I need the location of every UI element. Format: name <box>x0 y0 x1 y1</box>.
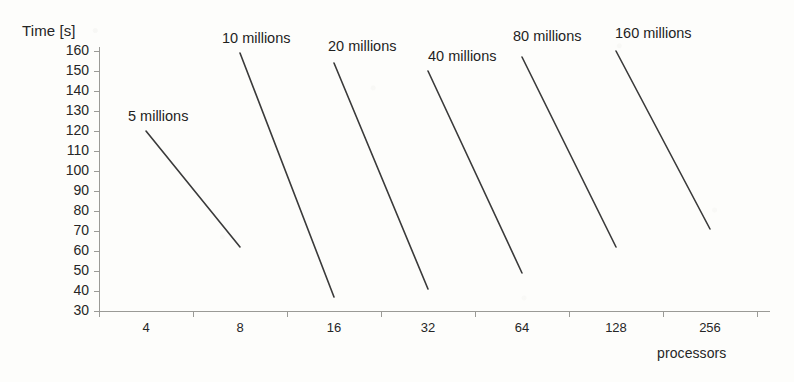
x-tick-label: 64 <box>492 320 552 335</box>
y-tick-label: 70 <box>55 222 89 238</box>
series-line <box>240 53 334 297</box>
y-tick-label: 40 <box>55 282 89 298</box>
y-tick-label: 150 <box>55 62 89 78</box>
x-tick-label: 32 <box>398 320 458 335</box>
tick-marks <box>94 51 757 317</box>
y-tick-label: 100 <box>55 162 89 178</box>
x-axis-title: processors <box>657 345 726 361</box>
series-label: 20 millions <box>328 38 397 54</box>
y-tick-label: 50 <box>55 262 89 278</box>
chart-container: Time [s] processors 16015014013012011010… <box>0 0 794 382</box>
x-tick-label: 8 <box>210 320 270 335</box>
series-label: 10 millions <box>222 30 291 46</box>
series-label: 160 millions <box>615 25 692 41</box>
series-label: 40 millions <box>428 48 497 64</box>
y-tick-label: 90 <box>55 182 89 198</box>
series-line <box>146 131 240 247</box>
x-tick-label: 128 <box>586 320 646 335</box>
series-line <box>522 57 616 247</box>
x-tick-label: 256 <box>680 320 740 335</box>
y-tick-label: 30 <box>55 302 89 318</box>
y-tick-label: 110 <box>55 142 89 158</box>
y-tick-label: 160 <box>55 42 89 58</box>
series-label: 5 millions <box>128 108 188 124</box>
y-tick-label: 130 <box>55 102 89 118</box>
series-lines <box>146 51 710 297</box>
series-line <box>428 71 522 273</box>
y-tick-label: 80 <box>55 202 89 218</box>
x-tick-label: 4 <box>116 320 176 335</box>
x-tick-label: 16 <box>304 320 364 335</box>
series-label: 80 millions <box>513 28 582 44</box>
series-line <box>334 63 428 289</box>
y-axis-title: Time [s] <box>22 22 76 39</box>
series-line <box>616 51 710 229</box>
y-tick-label: 140 <box>55 82 89 98</box>
y-tick-label: 120 <box>55 122 89 138</box>
y-tick-label: 60 <box>55 242 89 258</box>
